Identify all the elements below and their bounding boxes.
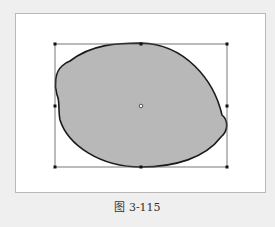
- handle-top-left[interactable]: [54, 43, 57, 46]
- shape-layer: [0, 0, 275, 227]
- handle-middle-right[interactable]: [226, 105, 229, 108]
- center-point-icon[interactable]: [139, 104, 143, 108]
- handle-bottom-left[interactable]: [54, 166, 57, 169]
- handle-bottom-right[interactable]: [226, 166, 229, 169]
- handle-bottom-center[interactable]: [140, 166, 143, 169]
- handle-top-center[interactable]: [140, 43, 143, 46]
- handle-top-right[interactable]: [226, 43, 229, 46]
- figure-caption: 图 3-115: [0, 198, 275, 214]
- handle-middle-left[interactable]: [54, 105, 57, 108]
